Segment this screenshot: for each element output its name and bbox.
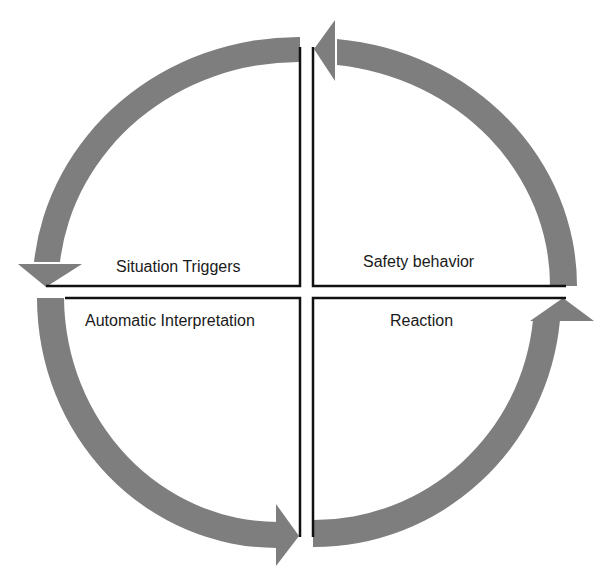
arrowhead-down-icon [18,264,82,287]
arc-top-right [337,39,577,286]
arrow-interpretation-to-reaction [37,298,299,566]
arrow-triggers-to-interpretation [18,37,300,287]
arrowhead-up-icon [530,298,594,321]
arc-top-left [34,37,300,262]
arc-bottom-right [313,320,560,547]
label-reaction: Reaction [390,313,453,329]
arrow-reaction-to-safety [313,298,594,547]
cycle-diagram [0,0,613,578]
label-situation-triggers: Situation Triggers [116,259,241,275]
arrowhead-right-icon [276,504,299,566]
arrow-safety-to-triggers [314,20,577,286]
label-safety-behavior: Safety behavior [363,254,474,270]
arrowhead-left-icon [314,20,335,81]
arc-bottom-left [37,298,278,548]
label-automatic-interpretation: Automatic Interpretation [85,313,255,329]
